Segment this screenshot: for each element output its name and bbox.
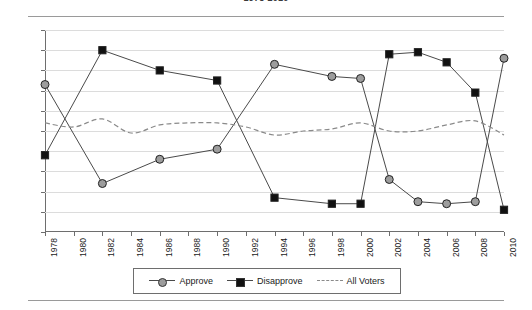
circle-marker-icon <box>149 276 175 286</box>
legend-label-all-voters: All Voters <box>347 276 385 286</box>
data-point-marker <box>98 180 106 188</box>
x-tick-label: 1984 <box>135 238 145 257</box>
legend-item-all-voters[interactable]: All Voters <box>317 276 385 286</box>
x-tick-label: 1998 <box>336 238 346 257</box>
bottom-divider-rule <box>28 300 504 301</box>
x-tick-mark <box>447 232 448 236</box>
data-point-marker <box>328 72 336 80</box>
x-tick-label: 1996 <box>307 238 317 257</box>
legend-item-approve[interactable]: Approve <box>149 276 213 286</box>
legend-label-approve: Approve <box>179 276 213 286</box>
data-point-marker <box>500 206 507 213</box>
data-point-marker <box>443 200 451 208</box>
data-point-marker <box>156 67 163 74</box>
data-point-marker <box>214 77 221 84</box>
legend-item-disapprove[interactable]: Disapprove <box>227 276 303 286</box>
x-tick-mark <box>389 232 390 236</box>
top-divider-rule <box>28 16 504 17</box>
x-tick-label: 2000 <box>365 238 375 257</box>
x-tick-label: 2008 <box>479 238 489 257</box>
x-tick-label: 1990 <box>221 238 231 257</box>
x-tick-mark <box>131 232 132 236</box>
data-point-marker <box>414 198 422 206</box>
series-line-disapprove <box>45 50 504 210</box>
data-point-marker <box>328 200 335 207</box>
data-point-marker <box>357 200 364 207</box>
data-point-marker <box>500 54 508 62</box>
data-point-marker <box>156 155 164 163</box>
series-line-approve <box>45 58 504 203</box>
x-tick-label: 1978 <box>49 238 59 257</box>
x-tick-mark <box>160 232 161 236</box>
x-tick-label: 1994 <box>279 238 289 257</box>
x-tick-mark <box>45 232 46 236</box>
x-tick-mark <box>275 232 276 236</box>
x-tick-mark <box>188 232 189 236</box>
data-point-marker <box>471 198 479 206</box>
x-tick-mark <box>74 232 75 236</box>
x-tick-label: 2004 <box>422 238 432 257</box>
x-tick-mark <box>504 232 505 236</box>
data-point-marker <box>443 59 450 66</box>
x-tick-mark <box>418 232 419 236</box>
data-point-marker <box>99 47 106 54</box>
data-point-marker <box>357 74 365 82</box>
chart-title: 1978-2010 <box>0 0 532 2</box>
x-tick-mark <box>303 232 304 236</box>
x-tick-label: 1988 <box>192 238 202 257</box>
x-tick-mark <box>102 232 103 236</box>
plot-area: 0%10%20%30%40%50%60%70%80%90%100% 197819… <box>45 30 504 232</box>
data-point-marker <box>414 49 421 56</box>
series-lines <box>45 30 504 232</box>
chart-figure: 1978-2010 0%10%20%30%40%50%60%70%80%90%1… <box>0 0 532 310</box>
data-point-marker <box>213 145 221 153</box>
dashed-line-icon <box>317 276 343 286</box>
x-tick-mark <box>361 232 362 236</box>
series-line-all-voters <box>45 119 504 135</box>
x-tick-label: 1982 <box>106 238 116 257</box>
chart-legend: Approve Disapprove All Voters <box>133 268 401 294</box>
square-marker-icon <box>227 276 253 286</box>
x-tick-label: 1992 <box>250 238 260 257</box>
x-tick-label: 1986 <box>164 238 174 257</box>
data-point-marker <box>271 60 279 68</box>
x-tick-label: 2006 <box>451 238 461 257</box>
data-point-marker <box>271 194 278 201</box>
x-tick-label: 1980 <box>78 238 88 257</box>
x-tick-label: 2010 <box>508 238 518 257</box>
x-tick-mark <box>246 232 247 236</box>
x-tick-mark <box>217 232 218 236</box>
x-tick-label: 2002 <box>393 238 403 257</box>
x-tick-mark <box>332 232 333 236</box>
data-point-marker <box>385 175 393 183</box>
x-tick-mark <box>475 232 476 236</box>
data-point-marker <box>41 152 48 159</box>
data-point-marker <box>472 89 479 96</box>
legend-label-disapprove: Disapprove <box>257 276 303 286</box>
data-point-marker <box>41 81 49 89</box>
data-point-marker <box>386 51 393 58</box>
